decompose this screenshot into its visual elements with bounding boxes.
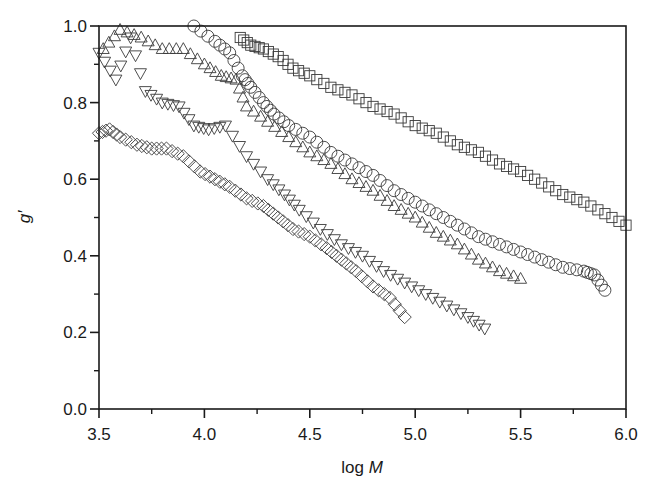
square-marker: [438, 132, 448, 142]
circle-marker: [261, 100, 273, 112]
circle-marker: [581, 266, 593, 278]
triangle-down-marker: [479, 324, 491, 335]
circle-marker: [536, 254, 548, 266]
circle-marker: [585, 268, 597, 280]
x-axis-ticks: 3.54.04.55.05.56.0: [87, 409, 638, 444]
circle-marker: [508, 243, 520, 255]
y-tick-label: 0.2: [63, 323, 87, 342]
square-marker: [431, 128, 441, 138]
square-marker: [586, 201, 596, 211]
circle-marker: [486, 236, 498, 248]
circle-marker: [353, 162, 365, 174]
square-marker: [530, 174, 540, 184]
x-tick-label: 6.0: [614, 425, 638, 444]
circle-marker: [494, 238, 506, 250]
circle-marker: [430, 208, 442, 220]
circle-marker: [257, 97, 269, 109]
x-axis-label-italic: M: [369, 458, 384, 477]
circle-marker: [522, 249, 534, 261]
square-marker: [572, 195, 582, 205]
x-axis-label: log M: [341, 458, 383, 477]
square-marker: [607, 212, 617, 222]
diamond-marker: [330, 249, 343, 262]
square-marker: [375, 104, 385, 114]
circle-marker: [550, 259, 562, 271]
square-marker: [452, 140, 462, 150]
triangle-down-marker: [241, 152, 253, 163]
square-marker: [466, 145, 476, 155]
circle-marker: [465, 227, 477, 239]
circle-marker: [249, 86, 261, 98]
square-marker: [326, 82, 336, 92]
square-marker: [480, 151, 490, 161]
square-marker: [347, 90, 357, 100]
diamond-marker: [340, 257, 353, 270]
x-tick-label: 5.5: [509, 425, 533, 444]
square-marker: [333, 85, 343, 95]
circle-marker: [451, 219, 463, 231]
triangle-down-marker: [248, 159, 260, 170]
square-marker: [305, 71, 315, 81]
y-tick-label: 0.4: [63, 247, 87, 266]
triangle-down-marker: [227, 131, 239, 142]
triangle-down-marker: [130, 51, 142, 62]
x-tick-label: 3.5: [87, 425, 111, 444]
circle-marker: [437, 212, 449, 224]
scatter-chart: 3.54.04.55.05.56.0 0.00.20.40.60.81.0 lo…: [0, 0, 659, 492]
circle-marker: [472, 231, 484, 243]
diamond-marker: [267, 207, 280, 220]
square-marker: [579, 197, 589, 207]
triangle-down-marker: [134, 69, 146, 80]
triangle-down-marker: [203, 125, 215, 136]
data-series-layer: [92, 20, 631, 335]
square-marker: [614, 216, 624, 226]
square-marker: [487, 155, 497, 165]
series-circles: [188, 20, 611, 296]
circle-marker: [264, 104, 276, 116]
circle-marker: [339, 154, 351, 166]
square-marker: [361, 98, 371, 108]
diamond-marker: [345, 261, 358, 274]
y-tick-label: 0.8: [63, 94, 87, 113]
square-marker: [459, 142, 469, 152]
circle-marker: [332, 150, 344, 162]
square-marker: [340, 87, 350, 97]
square-marker: [473, 147, 483, 157]
square-marker: [382, 106, 392, 116]
square-marker: [544, 182, 554, 192]
square-marker: [368, 101, 378, 111]
square-marker: [389, 109, 399, 119]
diamond-marker: [262, 203, 275, 216]
y-tick-label: 1.0: [63, 17, 87, 36]
diamond-marker: [281, 219, 294, 232]
triangle-down-marker: [255, 167, 267, 178]
square-marker: [593, 205, 603, 215]
circle-marker: [515, 246, 527, 258]
y-axis-label: g′: [15, 210, 34, 223]
plot-frame: [99, 26, 626, 409]
triangle-down-marker: [307, 218, 319, 229]
circle-marker: [479, 233, 491, 245]
diamond-marker: [335, 253, 348, 266]
square-marker: [312, 75, 322, 85]
square-marker: [508, 164, 518, 174]
circle-marker: [245, 81, 257, 93]
square-marker: [445, 136, 455, 146]
y-axis-ticks: 0.00.20.40.60.81.0: [63, 17, 99, 419]
y-tick-label: 0.0: [63, 400, 87, 419]
square-marker: [558, 189, 568, 199]
diamond-marker: [276, 215, 289, 228]
y-tick-label: 0.6: [63, 170, 87, 189]
series-down-triangles: [93, 33, 491, 335]
square-marker: [600, 209, 610, 219]
x-tick-label: 4.0: [193, 425, 217, 444]
circle-marker: [543, 256, 555, 268]
circle-marker: [232, 62, 244, 74]
circle-marker: [501, 241, 513, 253]
square-marker: [417, 123, 427, 133]
circle-marker: [458, 223, 470, 235]
circle-marker: [423, 204, 435, 216]
square-marker: [299, 68, 309, 78]
square-marker: [565, 192, 575, 202]
square-marker: [523, 170, 533, 180]
